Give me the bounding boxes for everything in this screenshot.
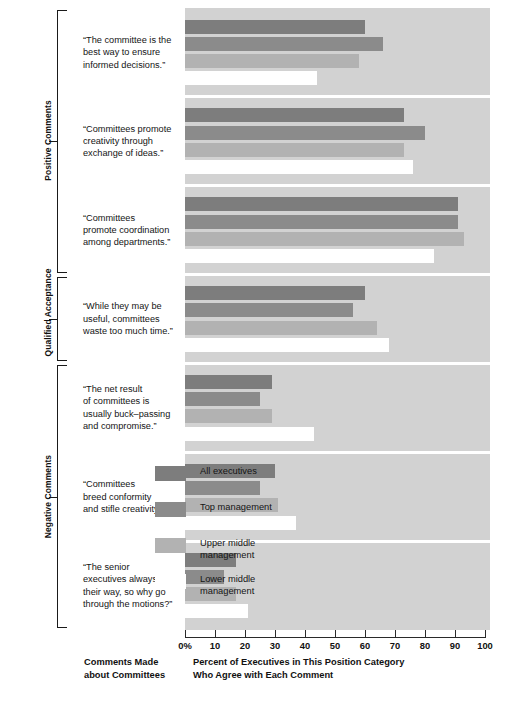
x-axis-title: Percent of Executives in This Position C… [193,656,493,681]
x-axis-tick-label: 100 [470,640,500,651]
x-axis-tick [485,630,486,637]
x-axis-tick-label: 50 [320,640,350,651]
bar [185,286,365,300]
bar [185,392,260,406]
legend-label: All executives [200,465,257,477]
y-axis-title: Comments Made about Committees [84,656,194,681]
legend-label: Lower middle management [200,573,255,597]
x-axis-tick-label: 30 [260,640,290,651]
group-separator [185,184,490,187]
bar [185,303,353,317]
comment-label: “While they may be useful, committees wa… [83,300,193,337]
x-axis-tick-label: 0% [170,640,200,651]
x-axis-tick-label: 90 [440,640,470,651]
legend-swatch [155,502,186,517]
x-axis-tick-label: 40 [290,640,320,651]
committee-opinion-bar-chart: Positive CommentsQualified AcceptanceNeg… [0,0,508,707]
bar [185,197,458,211]
x-axis-tick-label: 60 [350,640,380,651]
bar [185,126,425,140]
legend-item[interactable]: All executives [155,466,300,502]
bar [185,321,377,335]
x-axis-tick-label: 80 [410,640,440,651]
group-separator [185,273,490,276]
x-axis-tick [245,630,246,637]
bar [185,20,365,34]
bar [185,71,317,85]
bar [185,427,314,441]
bar [185,143,404,157]
bar [185,108,404,122]
legend-item[interactable]: Lower middle management [155,574,300,610]
group-label: Positive Comments [43,81,54,201]
comment-label: “Committees promote coordination among d… [83,212,193,249]
bar [185,37,383,51]
x-axis-tick [185,630,186,637]
bar [185,232,464,246]
bar [185,249,434,263]
x-axis-tick-label: 20 [230,640,260,651]
legend-swatch [155,466,186,481]
group-bracket [57,277,67,362]
group-bracket [57,365,67,628]
group-bracket [57,10,67,273]
legend-label: Upper middle management [200,537,255,561]
bar [185,215,458,229]
legend-swatch [155,574,186,589]
x-axis-tick-label: 10 [200,640,230,651]
group-label: Negative Comments [43,436,54,556]
bar [185,54,359,68]
x-axis-tick [305,630,306,637]
bar [185,338,389,352]
x-axis-tick [365,630,366,637]
bar [185,375,272,389]
x-axis-tick [425,630,426,637]
x-axis-tick [215,630,216,637]
bar [185,160,413,174]
legend: All executivesTop managementUpper middle… [155,466,300,610]
x-axis [185,630,490,640]
x-axis-tick [395,630,396,637]
comment-label: “The committee is the best way to ensure… [83,34,193,71]
group-separator [185,362,490,365]
comment-label: “The net result of committees is usually… [83,383,193,433]
x-axis-line [185,637,486,638]
group-label: Qualified Acceptance [43,253,54,373]
bar [185,409,272,423]
legend-label: Top management [200,501,272,513]
comment-label: “Committees promote creativity through e… [83,123,193,160]
x-axis-tick [335,630,336,637]
x-axis-tick [275,630,276,637]
group-separator [185,451,490,454]
x-axis-tick [455,630,456,637]
legend-item[interactable]: Top management [155,502,300,538]
legend-item[interactable]: Upper middle management [155,538,300,574]
legend-swatch [155,538,186,553]
group-separator [185,95,490,98]
x-axis-tick-label: 70 [380,640,410,651]
